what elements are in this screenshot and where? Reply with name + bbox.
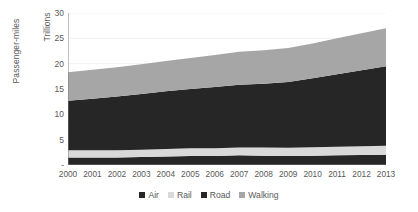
plot-svg: [68, 13, 386, 165]
x-tick-label: 2013: [369, 169, 403, 179]
y-tick-label: 20: [44, 60, 64, 68]
legend-item-walking[interactable]: Walking: [239, 190, 278, 200]
y-tick-label: 25: [44, 34, 64, 42]
y-tick-label: 15: [44, 85, 64, 93]
y-axis-title: Passenger-miles: [11, 0, 21, 111]
legend-swatch-icon: [201, 192, 207, 198]
legend-swatch-icon: [168, 192, 174, 198]
stacked-area-chart: Passenger-miles Trillions -51015202530 2…: [0, 0, 418, 212]
legend-swatch-icon: [139, 192, 145, 198]
y-tick-label: 30: [44, 9, 64, 17]
legend-swatch-icon: [239, 192, 245, 198]
legend-label: Rail: [177, 190, 192, 200]
legend-label: Road: [210, 190, 231, 200]
y-axis-tick-labels: -51015202530: [44, 0, 64, 212]
y-tick-label: -: [44, 161, 64, 169]
plot-area: [68, 13, 386, 165]
y-tick-label: 10: [44, 110, 64, 118]
legend-label: Air: [148, 190, 159, 200]
chart-legend: AirRailRoadWalking: [0, 190, 418, 200]
legend-item-rail[interactable]: Rail: [168, 190, 192, 200]
x-axis-tick-labels: 2000200120022003200420052006200720082009…: [68, 169, 386, 183]
legend-item-road[interactable]: Road: [201, 190, 231, 200]
legend-label: Walking: [248, 190, 278, 200]
legend-item-air[interactable]: Air: [139, 190, 159, 200]
y-tick-label: 5: [44, 136, 64, 144]
